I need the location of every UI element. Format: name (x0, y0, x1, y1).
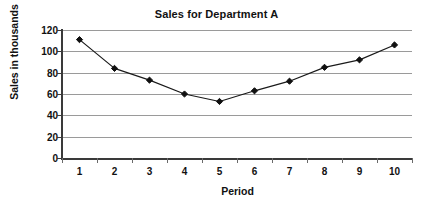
series-polyline (80, 40, 395, 102)
x-axis-title: Period (60, 185, 415, 197)
data-point-marker (181, 91, 187, 97)
chart-figure: Sales for Department A Sales in thousand… (0, 0, 433, 211)
data-point-marker (391, 42, 397, 48)
data-point-marker (321, 64, 327, 70)
data-point-marker (286, 78, 292, 84)
data-point-marker (146, 77, 152, 83)
data-series-line (0, 0, 433, 211)
data-point-marker (251, 88, 257, 94)
series-markers (76, 37, 397, 105)
data-point-marker (216, 98, 222, 104)
data-point-marker (356, 57, 362, 63)
